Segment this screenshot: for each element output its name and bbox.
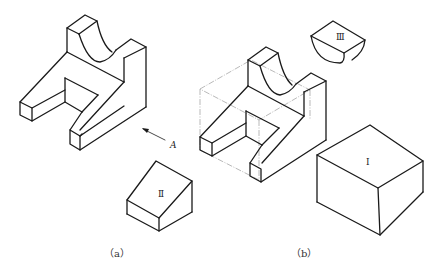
view-label: A [169, 140, 177, 150]
part-3-half-cylinder: Ⅲ [311, 21, 365, 63]
assembled-part-a [20, 15, 146, 150]
part-1-block: Ⅰ [317, 125, 423, 235]
part-2-wedge: Ⅱ [127, 161, 192, 231]
core-part-b [200, 47, 326, 182]
caption-a: （a） [104, 248, 130, 259]
part-1-label: Ⅰ [366, 157, 370, 167]
caption-b: （b） [291, 248, 317, 259]
part-2-label: Ⅱ [158, 189, 164, 199]
view-direction-arrow: A [142, 128, 177, 150]
technical-drawing: A Ⅱ （a） [0, 0, 436, 275]
part-3-label: Ⅲ [336, 32, 345, 42]
